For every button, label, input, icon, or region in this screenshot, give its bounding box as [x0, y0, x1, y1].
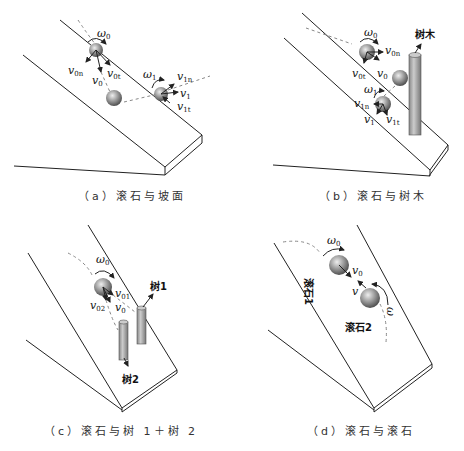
- svg-text:v: v: [352, 285, 359, 298]
- tree-trunk: [409, 55, 421, 135]
- svg-text:ω0: ω0: [364, 26, 377, 40]
- svg-text:ω1: ω1: [364, 83, 377, 97]
- caption-a: （a）滚石与坡面: [78, 187, 186, 203]
- svg-text:v0n: v0n: [68, 64, 84, 78]
- caption-b: （b）滚石与树木: [319, 187, 427, 203]
- panel-c: ω0 v01 v02 v0 树1 树2: [26, 225, 177, 412]
- panel-d: ω0 v0 滚石1 v ω 滚石2: [268, 225, 432, 412]
- svg-text:滚石2: 滚石2: [345, 321, 372, 333]
- svg-text:ω: ω: [384, 307, 397, 316]
- panel-a: ω0 v0n v0 v0t ω1 v1n v1 v1t: [14, 20, 210, 175]
- svg-text:滚石1: 滚石1: [303, 278, 315, 305]
- svg-text:ω0: ω0: [97, 27, 110, 41]
- svg-text:v1n: v1n: [354, 97, 370, 111]
- caption-c: （c）滚石与树 1＋树 2: [44, 422, 198, 438]
- svg-text:v02: v02: [90, 299, 105, 313]
- rock-mid: [106, 90, 122, 106]
- svg-text:v1t: v1t: [386, 113, 400, 127]
- svg-text:树木: 树木: [415, 28, 436, 40]
- tree-2: [119, 322, 128, 360]
- svg-text:ω0: ω0: [327, 234, 340, 248]
- svg-text:v0: v0: [377, 67, 388, 81]
- svg-text:树1: 树1: [150, 280, 167, 292]
- svg-text:v0: v0: [352, 264, 363, 278]
- svg-text:v0: v0: [92, 74, 103, 88]
- svg-text:v0t: v0t: [107, 67, 121, 81]
- panel-b: ω0 v0n v0t v0 ω1 v1n v1 v1t 树木: [273, 13, 448, 176]
- svg-text:v1t: v1t: [177, 100, 191, 114]
- svg-text:v1: v1: [180, 87, 191, 101]
- svg-text:v1: v1: [364, 113, 375, 127]
- caption-d: （d）滚石与滚石: [307, 422, 415, 438]
- svg-text:v1n: v1n: [177, 70, 193, 84]
- svg-text:v0n: v0n: [385, 44, 401, 58]
- tree-1: [137, 308, 146, 344]
- rockfall-collision-figure: ω0 v0n v0 v0t ω1 v1n v1 v1t ω0 v0n v0t v…: [0, 0, 464, 451]
- svg-text:ω1: ω1: [143, 68, 156, 82]
- svg-text:树2: 树2: [122, 373, 139, 385]
- svg-text:ω0: ω0: [96, 253, 109, 267]
